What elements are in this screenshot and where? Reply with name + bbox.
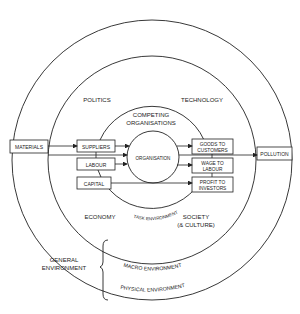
materials-label: MATERIALS xyxy=(15,144,44,150)
environment-diagram: ORGANISATION POLITICS TECHNOLOGY ECONOMY… xyxy=(0,0,300,314)
labour-box: LABOUR xyxy=(77,158,115,170)
physical-environment-label: PHYSICAL ENVIRONMENT xyxy=(120,282,186,293)
wage-box: WAGE TO LABOUR xyxy=(192,158,233,173)
goods-box: GOODS TO CUSTOMERS xyxy=(192,139,233,154)
goods-label-2: CUSTOMERS xyxy=(197,148,228,153)
competing-organisations-label-2: ORGANISATIONS xyxy=(126,120,176,126)
capital-box: CAPITAL xyxy=(77,177,111,189)
pollution-box: POLLUTION xyxy=(257,147,292,160)
materials-box: MATERIALS xyxy=(10,140,48,153)
profit-box: PROFIT TO INVESTORS xyxy=(192,177,233,192)
macro-environment-label: MACRO ENVIRONMENT xyxy=(123,262,183,272)
organisation-label: ORGANISATION xyxy=(136,156,171,161)
society-culture-label: (& CULTURE) xyxy=(177,222,215,228)
general-environment-label-2: ENVIRONMENT xyxy=(42,265,87,271)
task-environment-label: TASK ENVIRONMENT xyxy=(133,210,179,222)
suppliers-label: SUPPLIERS xyxy=(82,144,111,150)
task-environment-text: TASK ENVIRONMENT xyxy=(133,210,179,222)
organisation-node: ORGANISATION xyxy=(127,131,179,183)
technology-label: TECHNOLOGY xyxy=(181,97,223,103)
macro-environment-text: MACRO ENVIRONMENT xyxy=(123,262,183,272)
wage-label-2: LABOUR xyxy=(203,167,223,172)
politics-label: POLITICS xyxy=(83,97,110,103)
general-environment-label: GENERAL xyxy=(50,257,79,263)
goods-label: GOODS TO xyxy=(200,142,226,147)
wage-label: WAGE TO xyxy=(201,161,224,166)
physical-environment-text: PHYSICAL ENVIRONMENT xyxy=(120,282,186,293)
capital-label: CAPITAL xyxy=(84,181,105,187)
brace-icon xyxy=(100,240,108,300)
pollution-label: POLLUTION xyxy=(260,151,289,157)
profit-label-2: INVESTORS xyxy=(199,186,227,191)
competing-organisations-label: COMPETING xyxy=(133,112,170,118)
labour-label: LABOUR xyxy=(86,162,107,168)
profit-label: PROFIT TO xyxy=(200,180,226,185)
economy-label: ECONOMY xyxy=(84,214,115,220)
suppliers-box: SUPPLIERS xyxy=(77,140,115,152)
society-label: SOCIETY xyxy=(183,214,209,220)
